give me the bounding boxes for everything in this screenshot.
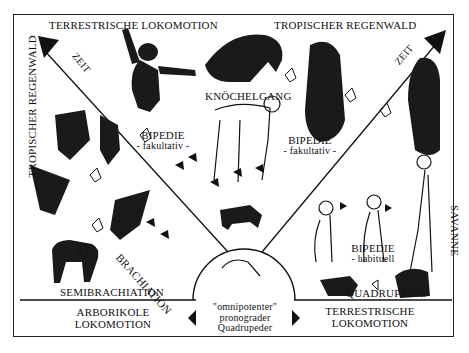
- label-terrestrial-locomotion: TERRESTRISCHE LOKOMOTION: [320, 306, 420, 329]
- arrow-right-icon: [292, 310, 300, 326]
- label-rainforest-top: TROPISCHER REGENWALD: [274, 20, 416, 31]
- label-quadrupedal: QUADRUPEDIE: [346, 288, 426, 299]
- progression-arrows: [146, 153, 392, 239]
- label-center-quadruped: "omnipotenter" pronograder Quadrupeder: [200, 302, 290, 334]
- label-knuckle-walking: KNÖCHELGANG: [205, 91, 292, 102]
- center-semicircle: [193, 249, 295, 300]
- label-savanna: SAVANNE: [449, 201, 460, 261]
- label-bipedal-habitual: BIPEDIE - habituell: [343, 243, 403, 264]
- label-semibrachiation: SEMIBRACHIATION: [60, 287, 164, 298]
- label-arboreal-locomotion: ARBORIKOLE LOKOMOTION: [68, 307, 158, 330]
- label-bipedal-facultative-right: BIPEDIE - fakultativ -: [280, 135, 340, 156]
- arrow-left-icon: [188, 310, 196, 326]
- label-bipedal-facultative-left: BIPEDIE - fakultativ -: [133, 130, 193, 151]
- label-rainforest-side: TROPISCHER REGENWALD: [27, 38, 38, 178]
- label-terrestrial-top: TERRESTRISCHE LOKOMOTION: [49, 20, 218, 31]
